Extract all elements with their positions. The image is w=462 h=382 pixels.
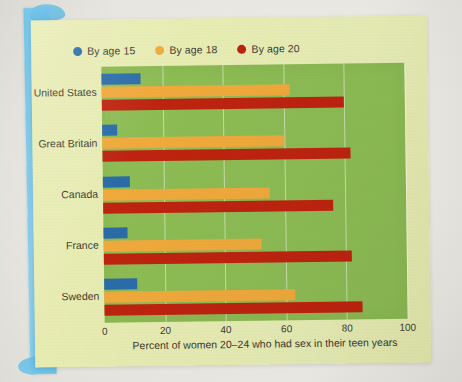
x-tick-label: 60 <box>281 323 292 334</box>
legend-label: By age 18 <box>169 43 217 56</box>
bar <box>102 136 284 149</box>
bar <box>102 148 351 162</box>
chart-card-inner: By age 15By age 18By age 20 United State… <box>31 15 432 367</box>
bar <box>104 278 137 289</box>
legend-item-3: By age 20 <box>237 42 299 55</box>
bar <box>104 289 295 302</box>
legend-swatch-icon <box>155 45 164 54</box>
legend-item-1: By age 15 <box>73 44 135 57</box>
bar-group <box>104 275 407 316</box>
bar <box>104 238 262 251</box>
x-tick-label: 80 <box>342 322 353 333</box>
category-label: Canada <box>61 188 98 200</box>
category-label: Sweden <box>61 290 99 302</box>
bar <box>102 84 290 97</box>
legend-label: By age 15 <box>87 44 135 57</box>
category-label: Great Britain <box>38 137 97 150</box>
x-tick-label: 100 <box>399 322 416 333</box>
bar <box>104 250 353 264</box>
bar-group <box>101 70 404 111</box>
bar-group <box>102 121 405 162</box>
bar-groups <box>101 63 407 323</box>
category-label: France <box>66 239 99 251</box>
screenshot-root: By age 15By age 18By age 20 United State… <box>0 0 462 382</box>
chart-legend: By age 15By age 18By age 20 <box>73 42 300 57</box>
legend-item-2: By age 18 <box>155 43 217 56</box>
bar-group <box>103 223 406 264</box>
bar <box>103 176 130 187</box>
legend-swatch-icon <box>73 46 82 55</box>
bar <box>103 199 333 213</box>
legend-label: By age 20 <box>251 42 299 55</box>
bar <box>102 97 345 111</box>
legend-swatch-icon <box>237 44 246 53</box>
x-tick-label: 0 <box>102 326 108 337</box>
x-tick-label: 40 <box>220 324 231 335</box>
plot-area <box>101 63 407 323</box>
chart-card: By age 15By age 18By age 20 United State… <box>31 15 432 367</box>
bar <box>102 125 117 136</box>
bar <box>103 227 127 238</box>
category-axis-labels: United StatesGreat BritainCanadaFranceSw… <box>31 67 104 324</box>
x-tick-label: 20 <box>160 325 171 336</box>
category-label: United States <box>34 85 97 98</box>
bar <box>104 301 362 315</box>
bar <box>103 187 270 200</box>
bar <box>101 73 141 85</box>
bar-group <box>103 172 406 213</box>
